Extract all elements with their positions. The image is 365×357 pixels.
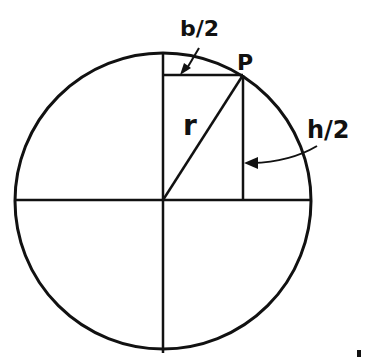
h-half-arrow <box>252 146 317 163</box>
label-point-p: P <box>237 50 253 75</box>
h-half-arrowhead <box>244 157 258 169</box>
label-radius: r <box>183 109 197 142</box>
corner-mark <box>357 350 361 357</box>
label-b-half: b/2 <box>180 16 219 41</box>
circle-rectangle-diagram: b/2 P r h/2 <box>0 0 365 357</box>
label-h-half: h/2 <box>307 116 350 144</box>
radius-line <box>163 75 243 200</box>
